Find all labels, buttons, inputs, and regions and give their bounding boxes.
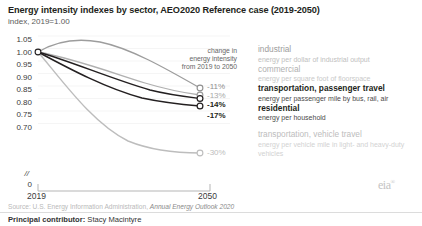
eia-logo: eia® (378, 178, 395, 193)
x-tick-2019: 2019 (27, 192, 46, 201)
legend-item-transportation-passenger-travel[interactable]: transportation, passenger travel energy … (258, 83, 422, 103)
contributor-label: Principal contributor: (8, 215, 85, 224)
chart-root: Energy intensity indexes by sector, AEO2… (0, 0, 422, 226)
legend-name-commercial: commercial (258, 64, 422, 75)
source-publication: Annual Energy Outlook 2020 (150, 203, 234, 210)
source-prefix: Source: U.S. Energy Information Administ… (8, 203, 150, 210)
endpoint-label-commercial: -13% (207, 92, 226, 100)
change-annotation-line-2: energy intensity (159, 55, 237, 63)
legend-desc-commercial: energy per square foot of floorspace (258, 74, 422, 83)
legend-item-commercial[interactable]: commercial energy per square foot of flo… (258, 64, 422, 84)
contributor-line: Principal contributor: Stacy Macintyre (8, 215, 141, 224)
legend-item-industrial[interactable]: industrial energy per dollar of industri… (258, 44, 422, 64)
legend-desc-transportation-passenger-travel: energy per passenger mile by bus, rail, … (258, 94, 422, 103)
footer-divider (0, 212, 422, 213)
legend-desc-industrial: energy per dollar of industrial output (258, 55, 422, 64)
legend: industrial energy per dollar of industri… (258, 44, 422, 158)
legend-item-transportation-vehicle-travel[interactable]: transportation, vehicle travel energy pe… (258, 129, 422, 158)
eia-logo-mark: ® (391, 179, 395, 185)
endpoint-label-residential: -17% (207, 112, 226, 120)
legend-name-residential: residential (258, 103, 422, 114)
legend-name-transportation-vehicle-travel: transportation, vehicle travel (258, 129, 422, 140)
endpoint-marker-industrial (197, 85, 203, 91)
legend-desc-transportation-vehicle-travel: energy per vehicle mile in light- and he… (258, 140, 408, 158)
legend-desc-residential: energy per household (258, 113, 422, 122)
endpoint-label-transportation-vehicle-travel: -30% (207, 149, 226, 157)
origin-marker (35, 49, 41, 55)
change-annotation: change in energy intensity from 2019 to … (159, 47, 237, 72)
source-note: Source: U.S. Energy Information Administ… (8, 203, 234, 210)
legend-name-transportation-passenger-travel: transportation, passenger travel (258, 83, 422, 94)
x-tick-2050: 2050 (198, 192, 217, 201)
endpoint-label-industrial: -11% (207, 83, 225, 91)
endpoint-label-transportation-passenger-travel: -14% (207, 101, 226, 109)
endpoint-marker-residential (197, 103, 203, 109)
change-annotation-line-1: change in (159, 47, 237, 55)
x-axis-bracket (38, 184, 210, 191)
contributor-name: Stacy Macintyre (87, 215, 141, 224)
endpoint-marker-transportation-passenger-travel (197, 96, 203, 102)
endpoint-marker-transportation-vehicle-travel (197, 150, 203, 156)
change-annotation-line-3: from 2019 to 2050 (159, 63, 237, 71)
eia-logo-text: eia (378, 178, 391, 192)
legend-name-industrial: industrial (258, 44, 422, 55)
legend-item-residential[interactable]: residential energy per household (258, 103, 422, 123)
